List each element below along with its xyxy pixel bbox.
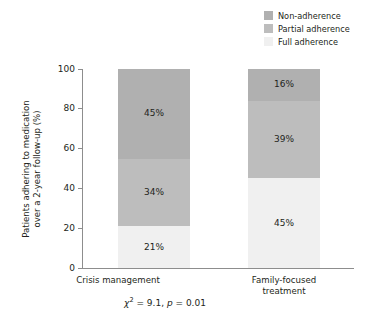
bar-segment-label: 16% xyxy=(274,80,294,89)
y-tick-mark-60 xyxy=(78,148,82,149)
legend-item-non-adherence: Non-adherence xyxy=(264,10,350,21)
x-axis-label-crisis-management: Crisis management xyxy=(53,275,183,286)
legend-label-full-adherence: Full adherence xyxy=(278,37,338,47)
y-axis-line xyxy=(82,69,83,269)
x-axis-label-family-focused-treatment: Family-focused treatment xyxy=(219,275,349,297)
y-tick-mark-0 xyxy=(78,268,82,269)
y-tick-mark-80 xyxy=(78,108,82,109)
legend-label-non-adherence: Non-adherence xyxy=(278,11,341,21)
legend-item-full-adherence: Full adherence xyxy=(264,36,350,47)
bar-segment-non-adherence[interactable]: 16% xyxy=(248,69,320,101)
x-axis-label-line1: Crisis management xyxy=(53,275,183,286)
y-tick-label-100: 100 xyxy=(58,65,75,74)
y-tick-label-40: 40 xyxy=(64,184,75,193)
legend-swatch-partial-adherence xyxy=(264,24,273,33)
y-tick-mark-40 xyxy=(78,188,82,189)
legend-swatch-full-adherence xyxy=(264,37,273,46)
footnote-p-text: = 0.01 xyxy=(173,298,206,308)
y-axis-title: Patients adhering to medication over a 2… xyxy=(10,69,54,269)
bar-segment-partial-adherence[interactable]: 39% xyxy=(248,101,320,179)
bar-segment-label: 45% xyxy=(274,219,294,228)
y-axis-title-line1: Patients adhering to medication xyxy=(21,100,33,237)
legend-swatch-non-adherence xyxy=(264,11,273,20)
y-tick-label-20: 20 xyxy=(64,224,75,233)
y-tick-label-0: 0 xyxy=(69,264,75,273)
footnote-chi-text: = 9.1, xyxy=(134,298,167,308)
x-axis-line xyxy=(82,268,354,269)
bar-segment-label: 45% xyxy=(144,109,164,118)
y-tick-mark-20 xyxy=(78,228,82,229)
y-tick-label-60: 60 xyxy=(64,144,75,153)
bar-segment-label: 21% xyxy=(144,243,164,252)
chart-legend: Non-adherence Partial adherence Full adh… xyxy=(264,10,350,47)
bar-segment-full-adherence[interactable]: 21% xyxy=(118,226,190,268)
bar-segment-label: 39% xyxy=(274,135,294,144)
chart-footnote: χ2 = 9.1, p = 0.01 xyxy=(0,296,330,308)
x-axis-label-line1: Family-focused xyxy=(219,275,349,286)
y-tick-mark-100 xyxy=(78,69,82,70)
legend-label-partial-adherence: Partial adherence xyxy=(278,24,350,34)
bar-segment-full-adherence[interactable]: 45% xyxy=(248,178,320,268)
bar-segment-label: 34% xyxy=(144,188,164,197)
bar-segment-non-adherence[interactable]: 45% xyxy=(118,69,190,159)
y-tick-label-80: 80 xyxy=(64,104,75,113)
legend-item-partial-adherence: Partial adherence xyxy=(264,23,350,34)
bar-segment-partial-adherence[interactable]: 34% xyxy=(118,159,190,227)
plot-area: 0 20 40 60 80 100 45% 34% 21% 16% 39% 45… xyxy=(82,69,354,269)
bar-family-focused-treatment[interactable]: 16% 39% 45% xyxy=(248,69,320,268)
bar-crisis-management[interactable]: 45% 34% 21% xyxy=(118,69,190,268)
y-axis-title-line2: over a 2-year follow-up (%) xyxy=(32,110,44,227)
